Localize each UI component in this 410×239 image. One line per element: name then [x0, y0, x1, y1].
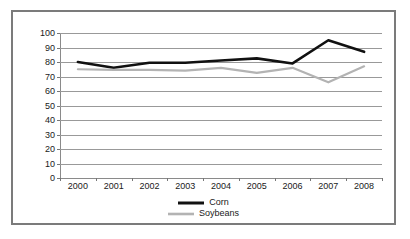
x-tick-mark-2002 [132, 178, 133, 181]
y-tick-label-60: 60 [45, 87, 55, 96]
x-tick-label-2008: 2008 [354, 182, 374, 191]
x-axis-group: 200020012002200320042005200620072008 [60, 178, 382, 192]
y-tick-label-40: 40 [45, 116, 55, 125]
x-tick-label-2007: 2007 [318, 182, 338, 191]
legend-label-corn: Corn [209, 198, 229, 207]
chart-legend: Corn Soybeans [13, 198, 394, 218]
y-tick-label-10: 10 [45, 159, 55, 168]
legend-swatch-soybeans [168, 210, 194, 218]
y-tick-label-0: 0 [50, 174, 55, 183]
legend-item-soybeans: Soybeans [168, 209, 239, 218]
y-tick-label-70: 70 [45, 72, 55, 81]
x-tick-label-2005: 2005 [247, 182, 267, 191]
legend-swatch-corn [178, 199, 204, 207]
x-tick-label-2003: 2003 [175, 182, 195, 191]
x-tick-label-2002: 2002 [139, 182, 159, 191]
y-tick-label-90: 90 [45, 43, 55, 52]
x-tick-mark-2003 [167, 178, 168, 181]
x-tick-label-2006: 2006 [283, 182, 303, 191]
x-tick-mark-2001 [96, 178, 97, 181]
x-tick-label-2000: 2000 [68, 182, 88, 191]
legend-label-soybeans: Soybeans [199, 209, 239, 218]
x-tick-label-2004: 2004 [211, 182, 231, 191]
y-tick-label-30: 30 [45, 130, 55, 139]
x-tick-mark-2007 [310, 178, 311, 181]
x-tick-mark-end [382, 178, 383, 181]
x-tick-mark-2008 [346, 178, 347, 181]
chart-frame: 0102030405060708090100 20002001200220032… [11, 10, 396, 225]
series-line-soybeans [78, 66, 364, 82]
legend-item-corn: Corn [178, 198, 229, 207]
series-lines-group [60, 33, 382, 178]
x-tick-mark-2005 [239, 178, 240, 181]
x-tick-mark-2004 [203, 178, 204, 181]
x-tick-label-2001: 2001 [104, 182, 124, 191]
y-tick-label-80: 80 [45, 58, 55, 67]
x-tick-mark-2000 [60, 178, 61, 181]
y-tick-label-100: 100 [40, 29, 55, 38]
x-tick-mark-2006 [275, 178, 276, 181]
y-tick-label-50: 50 [45, 101, 55, 110]
y-tick-label-20: 20 [45, 145, 55, 154]
plot-area: 0102030405060708090100 20002001200220032… [60, 33, 382, 178]
series-line-corn [78, 40, 364, 68]
